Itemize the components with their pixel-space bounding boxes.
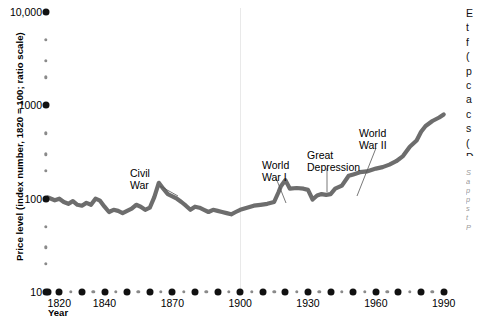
x-tick-label: 1930 [296, 297, 319, 309]
x-tick-dot-major [169, 289, 176, 296]
x-tick-label: 1870 [161, 297, 184, 309]
x-tick-label: 1960 [364, 297, 387, 309]
x-tick-dot-major [56, 289, 63, 296]
chart-annotation: World War I [262, 160, 289, 183]
y-tick-dot-major [43, 289, 50, 296]
x-tick-dot-major [350, 289, 357, 296]
x-tick-dot-major [259, 289, 266, 296]
x-tick-dot-major [395, 289, 402, 296]
x-tick-dot-major [191, 289, 198, 296]
side-text-note: S a p p s t P [466, 168, 487, 238]
x-tick-dot-major [305, 289, 312, 296]
x-tick-dot-major [282, 289, 289, 296]
x-tick-dot-major [124, 289, 131, 296]
plot-area [0, 0, 487, 325]
x-tick-dot-major [101, 289, 108, 296]
chart-figure: Price level (index number, 1820 = 100; r… [0, 0, 487, 325]
y-tick-dot-major [43, 195, 50, 202]
y-tick-dot-major [43, 102, 50, 109]
x-tick-dot-major [327, 289, 334, 296]
x-tick-label: 1990 [432, 297, 455, 309]
x-tick-dot-major [440, 289, 447, 296]
y-tick-dot-major [43, 9, 50, 16]
x-tick-label: 1900 [229, 297, 252, 309]
chart-annotation: Great Depression [307, 150, 360, 173]
x-tick-dot-major [237, 289, 244, 296]
x-tick-dot-major [146, 289, 153, 296]
x-tick-label: 1840 [93, 297, 116, 309]
chart-annotation: Civil War [130, 168, 150, 191]
x-tick-dot-major [372, 289, 379, 296]
x-tick-dot-major [78, 289, 85, 296]
x-tick-dot-major [418, 289, 425, 296]
x-axis-label: Year [48, 307, 68, 318]
x-tick-dot-major [214, 289, 221, 296]
chart-annotation: World War II [359, 128, 387, 151]
side-text-body: E t f ( p c a c s ( D [466, 6, 487, 156]
